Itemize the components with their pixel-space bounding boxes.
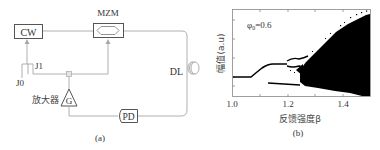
junction-node <box>67 72 72 77</box>
electrical-line-j1 <box>27 64 28 74</box>
pd-label: PD <box>122 112 134 122</box>
figure: CW MZM DL J1 J0 G 放大器 PD (a) <box>0 0 380 150</box>
caption-a: (a) <box>95 133 105 143</box>
caption-b: (b) <box>293 128 304 138</box>
chart-b: φ0=0.6 1.0 1.2 1.4 反馈强度β 幅值(a.u) (b) <box>215 10 371 139</box>
electrical-line-pd-amp <box>69 107 118 116</box>
amplifier-label: 放大器 <box>32 94 59 105</box>
electrical-line-to-mzm <box>33 42 108 74</box>
x-axis-label: 反馈强度β <box>279 113 321 124</box>
j0-label: J0 <box>16 78 25 88</box>
delay-line-coil-icon <box>188 62 199 74</box>
j1-label: J1 <box>35 61 43 71</box>
cw-label: CW <box>20 27 37 38</box>
x-tick-label: 1.2 <box>282 99 293 109</box>
x-tick-label: 1.4 <box>337 99 349 109</box>
y-axis-label: 幅值(a.u) <box>215 33 226 72</box>
arrow-up-icon <box>25 39 30 44</box>
phi-value: =0.6 <box>255 20 272 30</box>
arrow-up-icon <box>106 39 111 44</box>
phi-annotation: φ0=0.6 <box>247 20 272 31</box>
x-tick-label: 1.0 <box>226 99 238 109</box>
amplifier-gain-label: G <box>66 96 73 106</box>
dl-label: DL <box>170 66 183 77</box>
mzm-label: MZM <box>97 8 119 18</box>
